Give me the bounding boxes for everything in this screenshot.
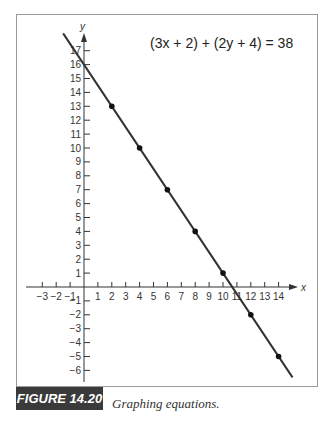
data-point [137,145,143,151]
data-point [109,104,115,110]
x-tick-label: 10 [217,291,229,302]
equation-title: (3x + 2) + (2y + 4) = 38 [150,35,293,51]
y-tick-label: 10 [70,143,82,154]
y-tick-label: 12 [70,115,82,126]
x-axis-arrow-icon [289,284,298,290]
x-tick-label: 2 [109,291,115,302]
data-point [220,270,226,276]
y-tick-label: 11 [71,129,82,140]
axes [26,33,298,382]
y-tick-label: 2 [75,254,81,265]
y-tick-label: 15 [70,73,82,84]
figure-caption: Graphing equations. [112,396,220,412]
y-tick-label: −4 [70,337,82,348]
x-tick-label: −3 [37,291,49,302]
y-tick-label: 1 [75,268,81,279]
y-tick-label: 9 [75,156,81,167]
figure-label: FIGURE 14.20 [16,387,103,410]
data-point [165,187,171,193]
y-tick-label: −1 [70,295,82,306]
x-tick-label: 5 [151,291,157,302]
equation-line [63,33,292,377]
line-chart: −3−2−11234567891011121314−6−5−4−3−2−1123… [0,0,335,427]
x-tick-label: 7 [179,291,185,302]
x-tick-label: 3 [123,291,129,302]
x-tick-label: 6 [165,291,171,302]
data-point [248,312,254,318]
y-tick-label: 4 [75,226,81,237]
y-tick-label: −2 [70,309,82,320]
data-series [63,33,292,377]
y-tick-label: −5 [70,351,82,362]
y-tick-label: 16 [70,59,82,70]
x-tick-label: 1 [95,291,101,302]
y-tick-label: 14 [70,87,82,98]
y-tick-label: 8 [75,170,81,181]
y-axis-arrow-icon [81,33,87,42]
y-tick-label: 6 [75,198,81,209]
axis-ticks: −3−2−11234567891011121314−6−5−4−3−2−1123… [37,45,285,376]
x-tick-label: 14 [273,291,285,302]
x-axis-label: x [300,282,307,293]
y-tick-label: 13 [70,101,82,112]
x-tick-label: 8 [192,291,198,302]
y-tick-label: −6 [70,365,82,376]
y-tick-label: 3 [75,240,81,251]
x-tick-label: −2 [50,291,62,302]
data-point [192,229,198,235]
x-tick-label: 4 [137,291,143,302]
y-axis-label: y [79,21,86,32]
data-point [276,354,282,360]
y-tick-label: −3 [70,323,82,334]
x-tick-label: 13 [259,291,271,302]
x-tick-label: 12 [245,291,257,302]
y-tick-label: 5 [75,212,81,223]
x-tick-label: 9 [206,291,212,302]
y-tick-label: 7 [75,184,81,195]
